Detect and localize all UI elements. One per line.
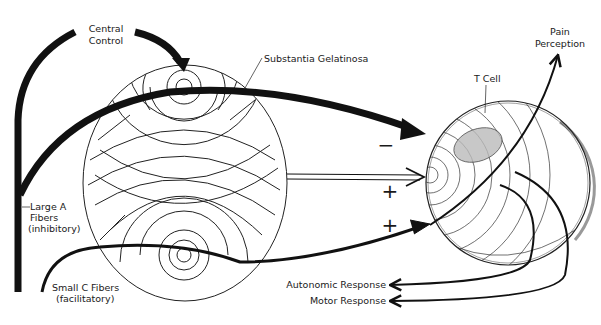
minus-sign: − [378, 133, 395, 157]
large-a-fibers-label-line3: (inhibitory) [28, 223, 80, 234]
to-autonomic-response-arrow [390, 185, 534, 285]
sg-to-t-cell-double-arrow [287, 168, 424, 186]
small-c-arrowhead [410, 220, 430, 234]
small-c-fibers-label-line1: Small C Fibers [52, 282, 119, 293]
large-a-fibers-label-line2: Fibers [30, 212, 58, 223]
large-a-to-t-cell-arrowhead [400, 118, 426, 140]
sg-leader-line [245, 58, 262, 88]
central-control-to-sg-arrow [135, 32, 180, 62]
substantia-gelatinosa-sphere [83, 65, 287, 301]
t-cell-leader-line [485, 85, 486, 113]
gate-control-diagram: Central Control Substantia Gelatinosa T … [0, 0, 601, 325]
large-a-fibers-label-line1: Large A [30, 201, 67, 212]
plus-sign-small-c: + [382, 213, 399, 237]
central-control-label-line1: Central [89, 23, 124, 34]
substantia-gelatinosa-label: Substantia Gelatinosa [264, 53, 368, 64]
to-motor-response-arrow [390, 172, 568, 301]
motor-response-label: Motor Response [310, 295, 386, 306]
autonomic-response-label: Autonomic Response [286, 279, 386, 290]
central-control-label-line2: Control [89, 35, 123, 46]
pain-perception-label-line2: Perception [535, 38, 585, 49]
pain-perception-label-line1: Pain [550, 26, 570, 37]
small-c-fibers-label-line2: (facilitatory) [56, 293, 114, 304]
plus-sign-sg: + [382, 179, 399, 203]
large-a-fiber-trunk [18, 32, 75, 292]
t-cell-label: T Cell [473, 73, 501, 84]
